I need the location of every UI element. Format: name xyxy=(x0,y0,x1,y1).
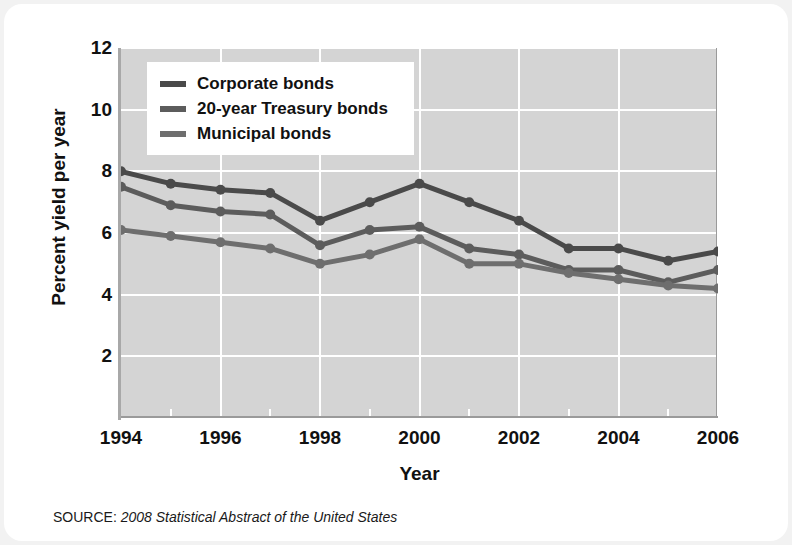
source-title: 2008 Statistical Abstract of the United … xyxy=(121,509,398,525)
x-tick-label: 1998 xyxy=(285,427,355,449)
series-marker xyxy=(614,265,624,275)
source-label: SOURCE: xyxy=(53,509,121,525)
series-marker xyxy=(614,243,624,253)
line-chart-figure: 24681012 1994199619982000200220042006 Pe… xyxy=(4,4,788,541)
series-marker xyxy=(265,243,275,253)
series-marker xyxy=(663,256,673,266)
series-marker xyxy=(415,234,425,244)
series-marker xyxy=(415,222,425,232)
series-marker xyxy=(121,225,126,235)
x-axis-tick-labels: 1994199619982000200220042006 xyxy=(121,427,718,455)
series-marker xyxy=(315,240,325,250)
y-tick-label: 4 xyxy=(82,284,112,306)
series-marker xyxy=(365,225,375,235)
series-marker xyxy=(365,197,375,207)
source-note: SOURCE: 2008 Statistical Abstract of the… xyxy=(53,509,397,525)
x-axis-title: Year xyxy=(121,463,718,485)
series-marker xyxy=(166,231,176,241)
figure-card: 24681012 1994199619982000200220042006 Pe… xyxy=(4,4,788,541)
series-marker xyxy=(464,259,474,269)
legend-label-corporate-bonds: Corporate bonds xyxy=(197,74,334,94)
x-tick-label: 2000 xyxy=(385,427,455,449)
series-marker xyxy=(365,250,375,260)
series-marker xyxy=(315,216,325,226)
y-axis-tick-labels: 24681012 xyxy=(76,48,112,418)
series-marker xyxy=(216,185,226,195)
y-tick-label: 2 xyxy=(82,345,112,367)
series-marker xyxy=(464,243,474,253)
y-tick-label: 10 xyxy=(82,99,112,121)
series-marker xyxy=(166,200,176,210)
y-tick-label: 6 xyxy=(82,222,112,244)
series-marker xyxy=(464,197,474,207)
series-marker xyxy=(166,179,176,189)
series-marker xyxy=(315,259,325,269)
series-marker xyxy=(663,280,673,290)
y-tick-label: 12 xyxy=(82,37,112,59)
series-marker xyxy=(216,206,226,216)
legend-swatch-municipal-bonds xyxy=(160,131,186,137)
series-marker xyxy=(713,284,718,294)
legend-swatch-corporate-bonds xyxy=(160,81,186,87)
x-tick-label: 2002 xyxy=(484,427,554,449)
x-tick-label: 1996 xyxy=(186,427,256,449)
x-tick-label: 1994 xyxy=(86,427,156,449)
series-marker xyxy=(564,268,574,278)
series-marker xyxy=(713,247,718,257)
chart-legend: Corporate bonds 20-year Treasury bonds M… xyxy=(147,62,414,155)
legend-label-municipal-bonds: Municipal bonds xyxy=(197,124,331,144)
x-tick-label: 2004 xyxy=(584,427,654,449)
legend-item-corporate-bonds: Corporate bonds xyxy=(160,71,388,96)
series-marker xyxy=(514,259,524,269)
series-marker xyxy=(265,188,275,198)
legend-item-treasury-bonds: 20-year Treasury bonds xyxy=(160,96,388,121)
x-tick-label: 2006 xyxy=(683,427,753,449)
legend-swatch-treasury-bonds xyxy=(160,106,186,112)
series-marker xyxy=(415,179,425,189)
series-marker xyxy=(265,210,275,220)
legend-item-municipal-bonds: Municipal bonds xyxy=(160,121,388,146)
series-marker xyxy=(564,243,574,253)
series-marker xyxy=(514,250,524,260)
y-axis-title: Percent yield per year xyxy=(48,92,70,322)
series-marker xyxy=(216,237,226,247)
y-tick-label: 8 xyxy=(82,160,112,182)
series-marker xyxy=(614,274,624,284)
series-marker xyxy=(514,216,524,226)
legend-label-treasury-bonds: 20-year Treasury bonds xyxy=(197,99,388,119)
